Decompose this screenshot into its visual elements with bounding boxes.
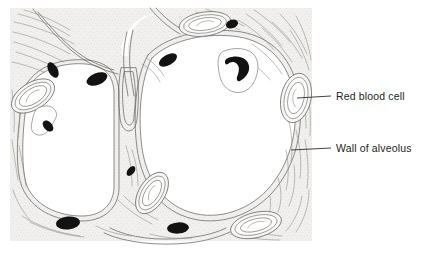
figure-canvas: Red blood cell Wall of alveolus bbox=[0, 0, 422, 253]
label-wall-of-alveolus: Wall of alveolus bbox=[336, 142, 412, 154]
alveoli-histology-diagram bbox=[0, 0, 422, 253]
label-red-blood-cell: Red blood cell bbox=[336, 90, 405, 102]
